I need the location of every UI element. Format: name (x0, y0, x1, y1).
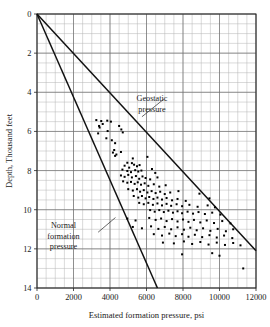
data-point (105, 137, 107, 139)
data-point (127, 174, 129, 176)
data-point (158, 186, 160, 188)
data-point (161, 204, 163, 206)
data-point (183, 229, 185, 231)
data-point (138, 202, 140, 204)
geostatic-pressure-label-line: pressure (138, 105, 166, 114)
data-point (166, 220, 168, 222)
data-point (148, 196, 150, 198)
y-tick-label: 6 (27, 127, 31, 136)
data-point (122, 131, 124, 133)
data-point (128, 167, 130, 169)
data-point (168, 233, 170, 235)
data-point (208, 234, 210, 236)
data-point (159, 191, 161, 193)
data-point (106, 120, 108, 122)
data-point (211, 252, 213, 254)
data-point (107, 130, 109, 132)
y-tick-label: 0 (27, 10, 31, 19)
data-point (151, 168, 153, 170)
data-point (131, 176, 133, 178)
data-point (118, 125, 120, 127)
data-point (232, 228, 234, 230)
data-point (154, 172, 156, 174)
data-point (193, 219, 195, 221)
data-point (196, 229, 198, 231)
data-point (187, 236, 189, 238)
data-point (231, 237, 233, 239)
data-point (224, 244, 226, 246)
data-point (147, 202, 149, 204)
data-point (223, 235, 225, 237)
data-point (111, 139, 113, 141)
data-point (208, 197, 210, 199)
data-point (221, 220, 223, 222)
data-point (146, 156, 148, 158)
data-point (137, 171, 139, 173)
data-point (170, 228, 172, 230)
data-point (170, 205, 172, 207)
data-point (135, 175, 137, 177)
data-point (181, 212, 183, 214)
data-point (156, 176, 158, 178)
data-point (219, 214, 221, 216)
normal-formation-pressure-label-line: formation (47, 232, 79, 241)
data-point (134, 169, 136, 171)
data-point (199, 241, 201, 243)
data-point (149, 178, 151, 180)
data-point (120, 128, 122, 130)
data-point (148, 217, 150, 219)
data-point (198, 211, 200, 213)
y-tick-label: 2 (27, 49, 31, 58)
data-point (141, 175, 143, 177)
data-point (164, 193, 166, 195)
data-point (169, 191, 171, 193)
data-point (201, 236, 203, 238)
data-point (182, 219, 184, 221)
data-point (198, 193, 200, 195)
data-point (181, 233, 183, 235)
data-point (132, 226, 134, 228)
data-point (171, 199, 173, 201)
data-point (143, 189, 145, 191)
x-tick-label: 2000 (65, 293, 82, 302)
data-point (102, 123, 104, 125)
normal-formation-pressure-label: Normalformationpressure (47, 221, 79, 251)
data-point (126, 182, 128, 184)
data-point (211, 212, 213, 214)
data-point (177, 190, 179, 192)
data-point (208, 244, 210, 246)
data-point (138, 178, 140, 180)
data-point (194, 234, 196, 236)
data-point (139, 191, 141, 193)
data-point (153, 183, 155, 185)
y-tick-label: 4 (27, 88, 32, 97)
normal-formation-pressure-label-line: pressure (50, 242, 78, 251)
data-point (137, 197, 139, 199)
data-point (197, 206, 199, 208)
data-point (139, 164, 141, 166)
data-point (177, 198, 179, 200)
data-point (166, 203, 168, 205)
y-tick-label: 8 (27, 167, 31, 176)
data-point (167, 210, 169, 212)
data-point (219, 255, 221, 257)
data-point (126, 218, 128, 220)
data-point (152, 204, 154, 206)
data-point (132, 157, 134, 159)
data-point (130, 181, 132, 183)
data-point (140, 184, 142, 186)
data-point (126, 162, 128, 164)
data-point (112, 152, 114, 154)
data-point (124, 176, 126, 178)
geostatic-pressure-label: Geostaticpressure (137, 94, 168, 114)
data-point (216, 242, 218, 244)
data-point (206, 219, 208, 221)
data-point (191, 243, 193, 245)
data-point (154, 211, 156, 213)
data-point (120, 174, 122, 176)
data-point (213, 222, 215, 224)
data-point (115, 154, 117, 156)
data-point (214, 206, 216, 208)
x-tick-label: 8000 (175, 293, 192, 302)
data-point (181, 205, 183, 207)
